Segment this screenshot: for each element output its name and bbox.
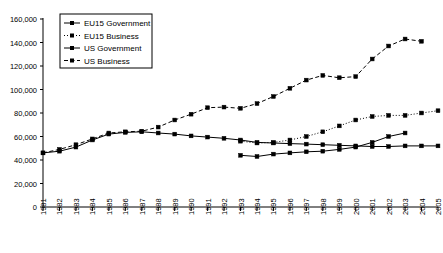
- data-point: [222, 136, 226, 140]
- y-tick-label: 40,000: [14, 156, 37, 165]
- data-point: [288, 138, 292, 142]
- y-axis: 020,00040,00060,00080,000100,000120,0001…: [10, 15, 43, 212]
- data-point: [206, 135, 210, 139]
- data-point: [436, 109, 440, 113]
- data-point: [370, 57, 374, 61]
- data-point: [288, 86, 292, 90]
- y-tick-label: 120,000: [10, 62, 37, 71]
- x-tick-label: 1999: [335, 198, 344, 215]
- legend-label: EU15 Business: [84, 32, 139, 41]
- y-tick-label: 100,000: [10, 86, 37, 95]
- x-tick-label: 1992: [220, 198, 229, 215]
- x-tick-label: 1984: [88, 198, 97, 215]
- data-point: [91, 137, 95, 141]
- x-tick-label: 1994: [253, 198, 262, 215]
- data-point: [370, 115, 374, 119]
- legend-label: US Government: [84, 44, 142, 53]
- data-point: [189, 134, 193, 138]
- data-point: [354, 118, 358, 122]
- y-tick-label: 60,000: [14, 133, 37, 142]
- data-point: [123, 130, 127, 134]
- data-point: [337, 143, 341, 147]
- data-point: [337, 76, 341, 80]
- legend-marker: [70, 34, 74, 38]
- x-tick-label: 1988: [154, 198, 163, 215]
- x-tick-label: 2003: [401, 198, 410, 215]
- data-point: [321, 143, 325, 147]
- data-point: [420, 144, 424, 148]
- data-point: [239, 138, 243, 142]
- data-point: [206, 106, 210, 110]
- data-point: [337, 124, 341, 128]
- y-tick-label: 140,000: [10, 39, 37, 48]
- x-tick-label: 1995: [269, 198, 278, 215]
- x-tick-label: 1990: [187, 198, 196, 215]
- data-point: [403, 131, 407, 135]
- legend-marker: [70, 59, 74, 63]
- data-point: [189, 112, 193, 116]
- data-point: [370, 141, 374, 145]
- data-point: [41, 151, 45, 155]
- data-point: [288, 151, 292, 155]
- data-point: [304, 135, 308, 139]
- data-point: [387, 135, 391, 139]
- data-point: [370, 145, 374, 149]
- x-tick-label: 1991: [204, 198, 213, 215]
- x-tick-label: 1981: [39, 198, 48, 215]
- data-point: [222, 105, 226, 109]
- data-point: [255, 155, 259, 159]
- data-point: [420, 39, 424, 43]
- x-tick-label: 2004: [418, 198, 427, 215]
- series-eu15-business: [239, 109, 440, 145]
- data-point: [387, 114, 391, 118]
- data-point: [288, 142, 292, 146]
- data-point: [403, 37, 407, 41]
- data-point: [337, 148, 341, 152]
- data-point: [354, 75, 358, 79]
- legend-label: EU15 Government: [84, 19, 151, 28]
- data-point: [403, 114, 407, 118]
- y-tick-label: 0: [33, 203, 37, 212]
- y-tick-label: 20,000: [14, 180, 37, 189]
- x-tick-label: 1986: [121, 198, 130, 215]
- data-point: [321, 74, 325, 78]
- data-point: [140, 129, 144, 133]
- data-point: [387, 145, 391, 149]
- data-point: [272, 95, 276, 99]
- x-tick-label: 1983: [72, 198, 81, 215]
- data-point: [304, 150, 308, 154]
- chart-legend: EU15 GovernmentEU15 BusinessUS Governmen…: [60, 14, 152, 68]
- x-tick-label: 1996: [286, 198, 295, 215]
- legend-marker: [70, 46, 74, 50]
- data-point: [272, 152, 276, 156]
- legend-label: US Business: [84, 57, 130, 66]
- x-tick-label: 2001: [368, 198, 377, 215]
- data-point: [272, 141, 276, 145]
- data-point: [436, 144, 440, 148]
- x-tick-label: 2000: [352, 198, 361, 215]
- x-tick-label: 1985: [105, 198, 114, 215]
- x-tick-label: 1989: [171, 198, 180, 215]
- x-tick-label: 1993: [237, 198, 246, 215]
- data-point: [156, 131, 160, 135]
- chart-container: 020,00040,00060,00080,000100,000120,0001…: [0, 0, 443, 253]
- x-tick-label: 1997: [302, 198, 311, 215]
- data-point: [321, 130, 325, 134]
- y-tick-label: 160,000: [10, 15, 37, 24]
- x-tick-label: 1987: [138, 198, 147, 215]
- y-tick-label: 80,000: [14, 109, 37, 118]
- x-tick-label: 2005: [434, 198, 443, 215]
- data-point: [403, 144, 407, 148]
- data-point: [107, 131, 111, 135]
- x-tick-label: 1982: [55, 198, 64, 215]
- data-point: [420, 111, 424, 115]
- x-tick-label: 1998: [319, 198, 328, 215]
- data-point: [304, 142, 308, 146]
- x-axis: 1981198219831984198519861987198819891990…: [39, 198, 443, 215]
- data-point: [58, 148, 62, 152]
- data-point: [321, 149, 325, 153]
- data-point: [239, 106, 243, 110]
- data-point: [239, 153, 243, 157]
- x-tick-label: 2002: [385, 198, 394, 215]
- legend-marker: [70, 21, 74, 25]
